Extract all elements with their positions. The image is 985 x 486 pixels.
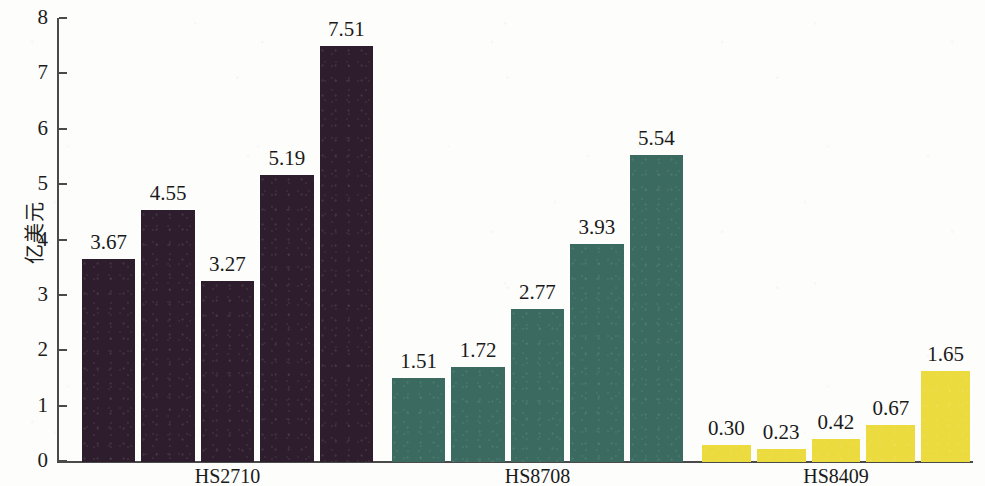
bar[interactable] xyxy=(392,378,445,462)
y-axis-tick-label: 0 xyxy=(20,450,48,471)
bar-group: 3.674.553.275.197.51 xyxy=(82,10,373,462)
y-axis-tick-label: 1 xyxy=(20,395,48,416)
bar-value-label: 5.54 xyxy=(638,128,675,149)
bar-slot: 0.42 xyxy=(812,10,861,462)
bar-slot: 1.65 xyxy=(921,10,970,462)
bar[interactable] xyxy=(511,309,564,462)
bar-value-label: 1.65 xyxy=(927,344,964,365)
bar-value-label: 4.55 xyxy=(150,183,187,204)
y-axis-tick-label: 3 xyxy=(20,284,48,305)
y-axis-tick-label: 5 xyxy=(20,173,48,194)
bar[interactable] xyxy=(570,244,623,462)
bar-slot: 0.23 xyxy=(757,10,806,462)
y-axis-tick-label: 7 xyxy=(20,62,48,83)
bar-slot: 1.72 xyxy=(451,10,504,462)
bar[interactable] xyxy=(812,439,861,462)
bar-value-label: 0.67 xyxy=(872,398,909,419)
bar-slot: 0.30 xyxy=(702,10,751,462)
bar-slot: 5.19 xyxy=(260,10,313,462)
x-axis-category-label: HS2710 xyxy=(195,466,261,486)
x-axis-category-label: HS8409 xyxy=(803,466,869,486)
bar-slot: 7.51 xyxy=(320,10,373,462)
bar-value-label: 5.19 xyxy=(269,148,306,169)
bar-value-label: 3.27 xyxy=(209,254,246,275)
bar-group: 1.511.722.773.935.54 xyxy=(392,10,683,462)
bar[interactable] xyxy=(866,425,915,462)
bar-slot: 5.54 xyxy=(630,10,683,462)
bar-value-label: 1.51 xyxy=(400,351,437,372)
bar-value-label: 7.51 xyxy=(328,19,365,40)
bar-slot: 1.51 xyxy=(392,10,445,462)
bar-slot: 3.93 xyxy=(570,10,623,462)
bar-value-label: 0.30 xyxy=(708,418,745,439)
bar-value-label: 2.77 xyxy=(519,282,556,303)
y-axis-tick-label: 2 xyxy=(20,339,48,360)
y-axis-tick-label: 8 xyxy=(20,7,48,28)
bar-value-label: 1.72 xyxy=(460,340,497,361)
bar-slot: 4.55 xyxy=(141,10,194,462)
bar[interactable] xyxy=(82,259,135,462)
bar[interactable] xyxy=(320,46,373,462)
bar-slot: 3.67 xyxy=(82,10,135,462)
bar-value-label: 0.23 xyxy=(763,422,800,443)
bar-value-label: 3.93 xyxy=(579,217,616,238)
bar[interactable] xyxy=(702,445,751,462)
bar-chart-figure: 亿美元 012345678 3.674.553.275.197.511.511.… xyxy=(0,0,985,486)
bar[interactable] xyxy=(201,281,254,462)
bar[interactable] xyxy=(451,367,504,462)
x-axis-category-label: HS8708 xyxy=(505,466,571,486)
bar[interactable] xyxy=(630,155,683,462)
y-axis-tick-label: 6 xyxy=(20,118,48,139)
bar-slot: 3.27 xyxy=(201,10,254,462)
bar[interactable] xyxy=(141,210,194,462)
bar[interactable] xyxy=(260,175,313,462)
bar[interactable] xyxy=(757,449,806,462)
bar-slot: 0.67 xyxy=(866,10,915,462)
y-axis-tick-label: 4 xyxy=(20,229,48,250)
bar-group: 0.300.230.420.671.65 xyxy=(702,10,970,462)
bar-value-label: 3.67 xyxy=(90,232,127,253)
bar-value-label: 0.42 xyxy=(818,412,855,433)
plot-area: 3.674.553.275.197.511.511.722.773.935.54… xyxy=(57,10,973,462)
bar-slot: 2.77 xyxy=(511,10,564,462)
bar[interactable] xyxy=(921,371,970,462)
